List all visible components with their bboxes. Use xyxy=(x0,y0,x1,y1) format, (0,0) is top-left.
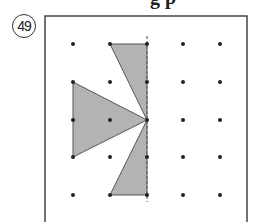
grid-dot xyxy=(108,80,112,84)
grid-dot xyxy=(181,193,185,197)
grid-dot xyxy=(71,193,75,197)
grid-dot xyxy=(145,42,149,46)
grid-dot xyxy=(71,118,75,122)
grid-dot xyxy=(145,193,149,197)
grid-dot xyxy=(71,80,75,84)
grid-dot xyxy=(218,42,222,46)
grid-dot xyxy=(108,155,112,159)
grid-dot xyxy=(145,155,149,159)
grid-dot xyxy=(218,155,222,159)
grid-dot xyxy=(108,42,112,46)
grid-dot xyxy=(218,80,222,84)
grid-dot xyxy=(71,155,75,159)
grid-dot xyxy=(108,118,112,122)
grid-dot xyxy=(145,80,149,84)
grid-dot xyxy=(181,155,185,159)
grid-dot xyxy=(145,118,149,122)
symmetry-figure xyxy=(0,0,255,222)
grid-dot xyxy=(218,193,222,197)
grid-dot xyxy=(181,42,185,46)
grid-dot xyxy=(71,42,75,46)
grid-dot xyxy=(108,193,112,197)
grid-dot xyxy=(181,118,185,122)
grid-dot xyxy=(181,80,185,84)
grid-dot xyxy=(218,118,222,122)
